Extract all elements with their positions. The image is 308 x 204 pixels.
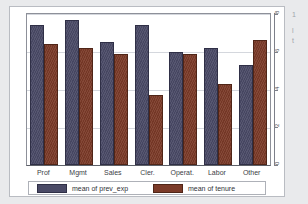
y-axis-tick-0: [274, 165, 278, 166]
bar-group: [239, 14, 267, 165]
x-axis-label-other: Other: [234, 167, 269, 178]
y-axis-tick-2: [274, 127, 278, 128]
bar-group: [135, 14, 163, 165]
y-axis-tick-label-2: 2: [274, 124, 280, 127]
bar-group: [30, 14, 58, 165]
x-axis-label-mgmt: Mgmt: [61, 167, 96, 178]
y-axis-tick-8: [274, 14, 278, 15]
y-axis-tick-label-4: 4: [274, 86, 280, 89]
x-axis-label-sales: Sales: [95, 167, 130, 178]
bar-group: [204, 14, 232, 165]
legend-swatch-tenure: [153, 184, 183, 193]
y-axis-tick-label-6: 6: [274, 48, 280, 51]
bar-prof-tenure: [44, 44, 58, 165]
x-axis-label-operat: Operat.: [165, 167, 200, 178]
x-axis-label-prof: Prof: [26, 167, 61, 178]
plot-area: [26, 13, 271, 166]
bar-sales-tenure: [114, 54, 128, 165]
bar-mgmt-prev-exp: [65, 20, 79, 165]
bar-cler-prev-exp: [135, 25, 149, 165]
bar-group: [65, 14, 93, 165]
bar-group: [100, 14, 128, 165]
bar-other-prev-exp: [239, 65, 253, 165]
bar-series-container: [27, 14, 270, 165]
bar-labor-tenure: [218, 84, 232, 165]
bar-group: [169, 14, 197, 165]
bar-operat-prev-exp: [169, 52, 183, 165]
x-axis-labels: ProfMgmtSalesCler.Operat.LaborOther: [26, 167, 271, 179]
margin-note-line1: 1: [292, 10, 296, 19]
bar-labor-prev-exp: [204, 48, 218, 165]
legend-entry-tenure: mean of tenure: [153, 183, 235, 193]
legend-label-prev-exp: mean of prev_exp: [72, 184, 128, 193]
legend-swatch-prev-exp: [37, 184, 67, 193]
bar-other-tenure: [253, 40, 267, 165]
legend-label-tenure: mean of tenure: [188, 184, 235, 193]
margin-note-line2: l: [292, 26, 294, 35]
x-axis-label-cler: Cler.: [130, 167, 165, 178]
bar-prof-prev-exp: [30, 25, 44, 165]
bar-cler-tenure: [149, 95, 163, 165]
chart-legend: mean of prev_exp mean of tenure: [28, 181, 266, 195]
scanned-page: 02468 ProfMgmtSalesCler.Operat.LaborOthe…: [0, 0, 308, 204]
bar-operat-tenure: [183, 54, 197, 165]
bar-sales-prev-exp: [100, 42, 114, 165]
bar-mgmt-tenure: [79, 48, 93, 165]
x-axis-label-labor: Labor: [200, 167, 235, 178]
legend-entry-prev-exp: mean of prev_exp: [37, 183, 128, 193]
chart-figure: 02468 ProfMgmtSalesCler.Operat.LaborOthe…: [9, 6, 285, 197]
y-axis-tick-label-0: 0: [274, 162, 280, 165]
margin-note-line3: t: [292, 36, 294, 45]
y-axis-tick-label-8: 8: [274, 11, 280, 14]
